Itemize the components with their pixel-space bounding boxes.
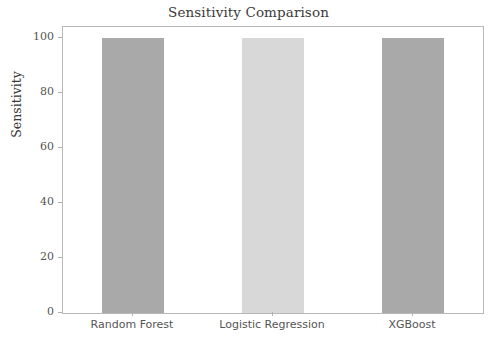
plot-area	[62, 26, 484, 314]
x-tick-label: Logistic Regression	[219, 318, 325, 331]
x-tick-mark	[412, 312, 413, 316]
y-tick-mark	[58, 147, 62, 148]
x-tick-mark	[132, 312, 133, 316]
y-tick-label: 0	[47, 305, 54, 318]
y-tick-label: 100	[33, 30, 54, 43]
sensitivity-comparison-chart: Sensitivity Comparison Sensitivity 02040…	[0, 0, 497, 342]
y-tick-mark	[58, 92, 62, 93]
x-tick-label: Random Forest	[91, 318, 174, 331]
y-tick-label: 60	[40, 140, 54, 153]
y-tick-mark	[58, 37, 62, 38]
bar-xgboost	[382, 38, 444, 313]
x-tick-mark	[272, 312, 273, 316]
y-axis-label: Sensitivity	[9, 45, 24, 165]
y-tick-mark	[58, 257, 62, 258]
y-tick-label: 20	[40, 250, 54, 263]
y-tick-mark	[58, 202, 62, 203]
x-tick-label: XGBoost	[388, 318, 435, 331]
chart-title: Sensitivity Comparison	[0, 4, 497, 20]
bar-random-forest	[102, 38, 164, 313]
bars-layer	[63, 27, 483, 313]
bar-logistic-regression	[242, 38, 304, 313]
y-tick-label: 40	[40, 195, 54, 208]
y-tick-label: 80	[40, 85, 54, 98]
y-tick-mark	[58, 312, 62, 313]
